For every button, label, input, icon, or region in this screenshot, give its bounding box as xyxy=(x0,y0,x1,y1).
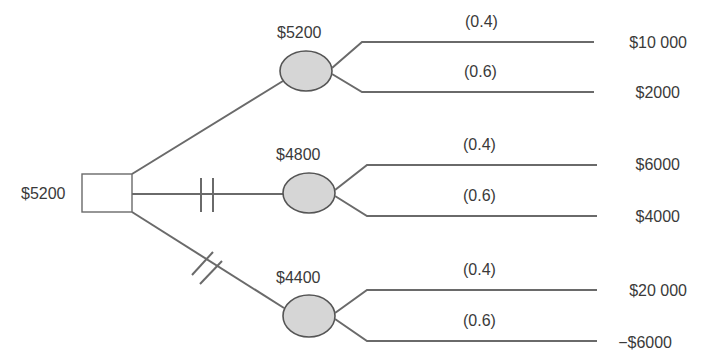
decision-node-value: $5200 xyxy=(21,185,66,202)
alternative-2: $4800 (0.4) (0.6) $6000 $4000 xyxy=(132,136,680,225)
outcome-1-2-payoff: $2000 xyxy=(636,84,681,101)
outcome-2-1-payoff: $6000 xyxy=(636,156,681,173)
chance-node-2 xyxy=(283,173,335,213)
outcome-1-1-payoff: $10 000 xyxy=(629,34,687,51)
alternative-3: $4400 (0.4) (0.6) $20 000 −$6000 xyxy=(132,212,687,351)
outcome-3-1-probability: (0.4) xyxy=(463,261,496,278)
outcome-2-1-probability: (0.4) xyxy=(463,136,496,153)
chance-node-1 xyxy=(280,51,332,91)
outcome-1-2-branch xyxy=(332,74,594,92)
chance-node-3-expected-value: $4400 xyxy=(276,269,321,286)
alternative-1-branch xyxy=(132,81,283,174)
alternative-3-branch xyxy=(132,212,284,308)
outcome-3-2-payoff: −$6000 xyxy=(618,334,672,351)
chance-node-2-expected-value: $4800 xyxy=(276,146,321,163)
decision-tree-diagram: $5200 $5200 (0.4) (0.6) $10 000 $2000 $4… xyxy=(0,0,703,362)
outcome-1-2-probability: (0.6) xyxy=(464,63,497,80)
outcome-2-2-probability: (0.6) xyxy=(463,187,496,204)
outcome-1-1-probability: (0.4) xyxy=(465,13,498,30)
chance-node-3 xyxy=(283,295,335,337)
alternative-1: $5200 (0.4) (0.6) $10 000 $2000 xyxy=(132,13,687,174)
chance-node-1-expected-value: $5200 xyxy=(277,24,322,41)
outcome-3-1-branch xyxy=(335,290,597,313)
outcome-2-2-payoff: $4000 xyxy=(636,208,681,225)
outcome-3-1-payoff: $20 000 xyxy=(629,282,687,299)
blocked-branch-mark-3 xyxy=(192,252,222,284)
decision-node-square xyxy=(82,174,132,212)
outcome-3-2-probability: (0.6) xyxy=(463,312,496,329)
outcome-1-1-branch xyxy=(332,42,594,68)
